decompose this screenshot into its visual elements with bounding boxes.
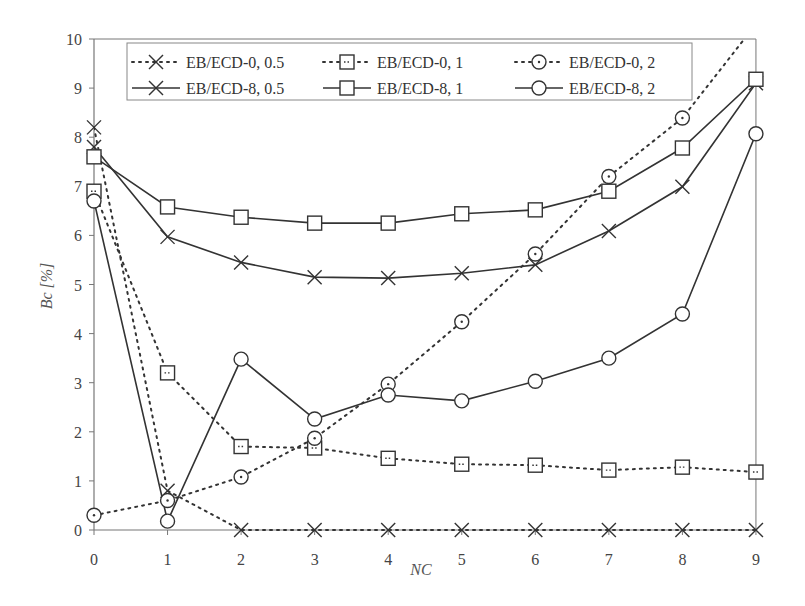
legend-label: EB/ECD-0, 2 (569, 54, 655, 71)
circle-marker-icon (455, 394, 469, 408)
square-marker-icon (528, 458, 542, 472)
circle-marker-icon (87, 194, 101, 208)
circle-marker-icon (161, 514, 175, 528)
y-axis-title: Bc [%] (38, 263, 55, 310)
y-tick-label: 3 (74, 375, 82, 392)
circle-marker-icon (234, 470, 248, 484)
x-marker-icon (675, 180, 689, 194)
legend-item: EB/ECD-8, 1 (323, 80, 463, 97)
legend-label: EB/ECD-0, 0.5 (186, 54, 284, 71)
square-marker-icon (234, 210, 248, 224)
y-tick-label: 1 (74, 473, 82, 490)
y-tick-label: 6 (74, 227, 82, 244)
circle-marker-icon (87, 508, 101, 522)
square-marker-icon (161, 200, 175, 214)
circle-marker-icon (749, 127, 763, 141)
circle-marker-icon (532, 55, 546, 69)
circle-marker-icon (528, 247, 542, 261)
y-tick-label: 2 (74, 424, 82, 441)
y-axis: 012345678910 (66, 31, 94, 539)
series-line-3 (94, 83, 756, 278)
line-chart: 012345678910 0123456789 Bc [%] NC EB/ECD… (0, 0, 805, 606)
square-marker-icon (455, 457, 469, 471)
x-tick-label: 9 (752, 551, 760, 568)
circle-marker-icon (308, 431, 322, 445)
square-marker-icon (234, 440, 248, 454)
y-tick-label: 9 (74, 80, 82, 97)
square-marker-icon (749, 465, 763, 479)
circle-marker-icon (602, 351, 616, 365)
x-axis-title: NC (409, 561, 432, 578)
legend-label: EB/ECD-8, 0.5 (186, 80, 284, 97)
x-marker-icon (234, 255, 248, 269)
square-marker-icon (455, 207, 469, 221)
y-tick-label: 5 (74, 277, 82, 294)
plot-frame (94, 39, 756, 530)
square-marker-icon (161, 366, 175, 380)
circle-marker-icon (308, 412, 322, 426)
legend-label: EB/ECD-0, 1 (377, 54, 463, 71)
square-marker-icon (381, 216, 395, 230)
y-tick-label: 4 (74, 326, 82, 343)
square-marker-icon (381, 451, 395, 465)
square-marker-icon (675, 460, 689, 474)
legend-item: EB/ECD-0, 2 (515, 54, 655, 71)
circle-marker-icon (532, 81, 546, 95)
x-marker-icon (602, 224, 616, 238)
circle-marker-icon (381, 388, 395, 402)
legend: EB/ECD-0, 0.5EB/ECD-0, 1EB/ECD-0, 2EB/EC… (127, 43, 692, 100)
series-line-1 (94, 191, 756, 472)
legend-item: EB/ECD-8, 2 (515, 80, 655, 97)
square-marker-icon (340, 55, 354, 69)
x-tick-label: 7 (605, 551, 613, 568)
x-tick-label: 0 (90, 551, 98, 568)
legend-item: EB/ECD-0, 1 (323, 54, 463, 71)
circle-marker-icon (602, 169, 616, 183)
x-tick-label: 2 (237, 551, 245, 568)
x-marker-icon (161, 230, 175, 244)
circle-marker-icon (161, 494, 175, 508)
square-marker-icon (749, 72, 763, 86)
x-tick-label: 1 (164, 551, 172, 568)
y-tick-label: 7 (74, 178, 82, 195)
circle-marker-icon (675, 307, 689, 321)
x-tick-label: 3 (311, 551, 319, 568)
x-tick-label: 5 (458, 551, 466, 568)
circle-marker-icon (455, 315, 469, 329)
circle-marker-icon (675, 111, 689, 125)
circle-marker-icon (234, 352, 248, 366)
legend-label: EB/ECD-8, 1 (377, 80, 463, 97)
x-tick-label: 6 (531, 551, 539, 568)
x-tick-label: 8 (678, 551, 686, 568)
x-tick-label: 4 (384, 551, 392, 568)
circle-marker-icon (528, 374, 542, 388)
square-marker-icon (528, 203, 542, 217)
legend-label: EB/ECD-8, 2 (569, 80, 655, 97)
square-marker-icon (602, 184, 616, 198)
square-marker-icon (87, 150, 101, 164)
y-tick-label: 0 (74, 522, 82, 539)
square-marker-icon (602, 463, 616, 477)
y-tick-label: 8 (74, 129, 82, 146)
y-tick-label: 10 (66, 31, 82, 48)
square-marker-icon (675, 141, 689, 155)
square-marker-icon (308, 216, 322, 230)
series-line-5 (94, 134, 756, 521)
square-marker-icon (340, 81, 354, 95)
